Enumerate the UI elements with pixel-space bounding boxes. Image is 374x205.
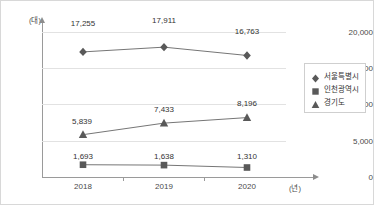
legend-label: 서울특별시 [324,70,359,81]
x-axis-tick-label: 2018 [60,182,106,191]
x-axis-unit-label: (년) [289,182,301,193]
legend-item-gyeonggi[interactable]: 경기도 [310,95,361,108]
data-label: 17,911 [152,16,176,25]
data-label: 17,255 [71,19,95,28]
diamond-marker-icon [79,48,87,56]
x-axis-arrow-icon [313,174,319,180]
square-marker-icon [161,162,168,169]
legend-label: 경기도 [324,96,345,107]
legend-item-seoul[interactable]: 서울특별시 [310,69,361,82]
square-marker-icon [310,83,321,94]
square-marker-icon [244,164,251,171]
y-axis-unit-label: (대) [13,14,41,25]
x-axis-line [42,177,314,178]
x-axis-tick [204,177,205,181]
y-axis-arrow-icon [39,17,45,23]
data-label: 8,196 [237,99,257,108]
data-label: 1,693 [73,152,93,161]
legend-item-incheon[interactable]: 인천광역시 [310,82,361,95]
legend: 서울특별시 인천광역시 경기도 [304,63,366,113]
x-axis-tick [123,177,124,181]
triangle-marker-icon [310,96,321,107]
data-label: 7,433 [154,105,174,114]
legend-label: 인천광역시 [324,83,359,94]
data-label: 1,310 [237,152,257,161]
x-axis-tick-label: 2019 [141,182,187,191]
triangle-marker-icon [243,113,251,121]
data-label: 1,638 [154,152,174,161]
y-axis-tick-label: 5,000 [339,137,373,146]
diamond-marker-icon [160,43,168,51]
square-marker-icon [80,161,87,168]
data-label: 5,839 [72,117,92,126]
plot-area: 17,255 17,911 16,763 5,839 7,433 8,196 1… [42,32,286,177]
y-axis-tick-label: 20,000 [339,28,373,37]
diamond-marker-icon [310,70,321,81]
x-axis-tick-label: 2020 [224,182,270,191]
y-axis-tick-label: 0 [339,173,373,182]
line-chart: (대) 20,000 15,000 10,000 5,000 0 [0,0,374,205]
diamond-marker-icon [243,51,251,59]
data-label: 16,763 [235,27,259,36]
